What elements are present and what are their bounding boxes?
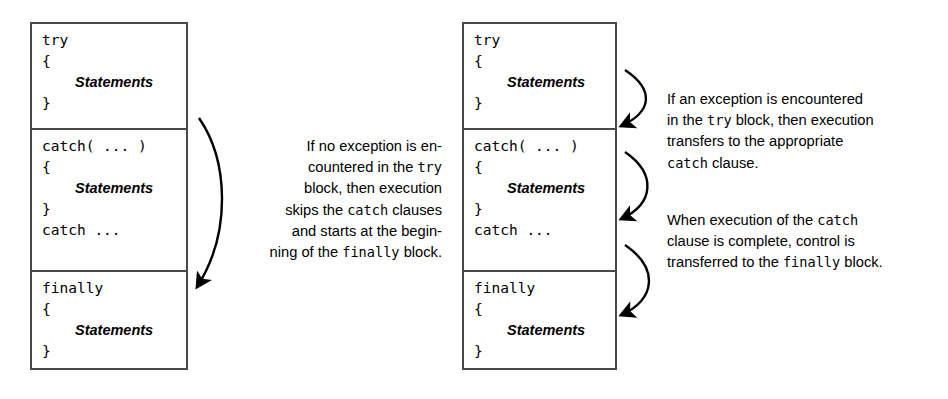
right-catch-to-finally-arrow <box>621 245 649 315</box>
right-try-statements: Statements <box>474 72 615 93</box>
left-finally-section: finally { Statements } <box>32 270 186 368</box>
left-finally-open-brace: { <box>42 299 186 320</box>
right-catch-to-catch-arrow <box>621 152 647 219</box>
right-catch-statements: Statements <box>474 178 615 199</box>
left-try-section: try { Statements } <box>32 24 186 128</box>
note-line: If no exception is en- <box>224 136 442 157</box>
left-finally-close-brace: } <box>42 341 186 362</box>
right-finally-close-brace: } <box>474 341 615 362</box>
left-try-keyword: try <box>42 30 186 51</box>
note-line: transferred to the finally block. <box>667 252 942 273</box>
right-try-section: try { Statements } <box>464 24 615 128</box>
note-line: countered in the try <box>224 157 442 178</box>
left-catch-ellipsis: catch ... <box>42 220 186 241</box>
right-catch-close-brace: } <box>474 199 615 220</box>
note-line: block, then execution <box>224 178 442 199</box>
left-catch-statements: Statements <box>42 178 186 199</box>
note-line: clause is complete, control is <box>667 231 942 252</box>
note-line: and starts at the begin- <box>224 221 442 242</box>
right-finally-section: finally { Statements } <box>464 270 615 368</box>
left-catch-section: catch( ... ) { Statements } catch ... <box>32 128 186 270</box>
left-try-statements: Statements <box>42 72 186 93</box>
note-line: in the try block, then execution <box>667 110 942 131</box>
right-catch-open-brace: { <box>474 157 615 178</box>
right-finally-statements: Statements <box>474 320 615 341</box>
right-try-close-brace: } <box>474 93 615 114</box>
left-catch-close-brace: } <box>42 199 186 220</box>
right-finally-open-brace: { <box>474 299 615 320</box>
right-catch-keyword: catch( ... ) <box>474 136 615 157</box>
right-catch-section: catch( ... ) { Statements } catch ... <box>464 128 615 270</box>
left-finally-statements: Statements <box>42 320 186 341</box>
left-try-close-brace: } <box>42 93 186 114</box>
left-try-to-finally-arrow <box>197 118 222 287</box>
note-line: transfers to the appropriate <box>667 131 942 152</box>
try-catch-finally-diagram: try { Statements } catch( ... ) { Statem… <box>0 0 948 399</box>
right-finally-keyword: finally <box>474 278 615 299</box>
right-try-keyword: try <box>474 30 615 51</box>
left-catch-keyword: catch( ... ) <box>42 136 186 157</box>
right-note-1-text: If an exception is encounteredin the try… <box>667 89 942 174</box>
left-catch-open-brace: { <box>42 157 186 178</box>
note-line: catch clause. <box>667 153 942 174</box>
right-try-open-brace: { <box>474 51 615 72</box>
left-code-block: try { Statements } catch( ... ) { Statem… <box>30 22 188 370</box>
right-catch-ellipsis: catch ... <box>474 220 615 241</box>
right-note-2-text: When execution of the catchclause is com… <box>667 210 942 274</box>
note-line: If an exception is encountered <box>667 89 942 110</box>
note-line: ning of the finally block. <box>224 242 442 263</box>
right-try-to-catch-arrow <box>621 70 646 126</box>
left-finally-keyword: finally <box>42 278 186 299</box>
note-line: When execution of the catch <box>667 210 942 231</box>
left-note-text: If no exception is en-countered in the t… <box>224 136 442 263</box>
left-try-open-brace: { <box>42 51 186 72</box>
right-code-block: try { Statements } catch( ... ) { Statem… <box>462 22 617 370</box>
note-line: skips the catch clauses <box>224 200 442 221</box>
